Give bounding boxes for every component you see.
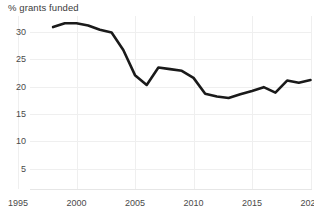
y-axis-tick-label: 20 bbox=[2, 82, 26, 92]
x-axis-tick-label: 1995 bbox=[8, 198, 28, 208]
series-line-grants-funded bbox=[53, 23, 310, 98]
series-chart-svg bbox=[30, 16, 312, 189]
x-axis-tick-label: 2000 bbox=[66, 198, 86, 208]
x-axis-tick-label: 2015 bbox=[242, 198, 262, 208]
chart-title: % grants funded bbox=[8, 2, 79, 13]
y-axis-tick-label: 10 bbox=[2, 136, 26, 146]
y-axis-tick-label: 5 bbox=[2, 164, 26, 174]
chart-figure: % grants funded 30 25 20 15 10 5 1995 20… bbox=[0, 0, 314, 222]
x-axis-tick-label: 2020 bbox=[300, 198, 314, 208]
plot-area: 30 25 20 15 10 5 1995 2000 2005 2010 201… bbox=[30, 16, 312, 189]
x-axis-tick-label: 2005 bbox=[125, 198, 145, 208]
x-axis-line bbox=[30, 189, 312, 190]
y-axis-tick-label: 15 bbox=[2, 109, 26, 119]
x-axis-tick-label: 2010 bbox=[183, 198, 203, 208]
y-axis-tick-label: 25 bbox=[2, 54, 26, 64]
y-axis-tick-label: 30 bbox=[2, 27, 26, 37]
